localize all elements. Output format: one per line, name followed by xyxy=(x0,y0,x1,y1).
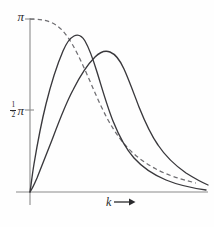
dashed-curve-series xyxy=(30,19,196,183)
scattering-phase-shift-figure: π 1 2 π k xyxy=(0,0,214,227)
fraction-denominator: 2 xyxy=(11,111,17,119)
x-axis-label: k xyxy=(106,196,136,208)
y-axis-label-half-pi: 1 2 π xyxy=(0,100,24,120)
pi-symbol-half: π xyxy=(17,104,24,117)
one-half-fraction: 1 2 xyxy=(10,101,16,118)
plot-canvas xyxy=(0,0,214,227)
pi-symbol: π xyxy=(17,9,24,24)
fraction-numerator: 1 xyxy=(11,101,17,109)
x-axis-label-text: k xyxy=(106,196,111,208)
y-axis-label-pi: π xyxy=(0,10,24,23)
solid-curve-series-2 xyxy=(30,51,208,192)
right-arrow-icon xyxy=(114,197,136,207)
